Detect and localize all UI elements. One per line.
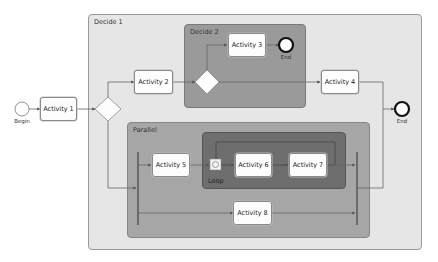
activity-1[interactable]: Activity 1 (40, 97, 77, 121)
activity-7-label: Activity 7 (293, 161, 324, 169)
end-event-decide2 (279, 38, 293, 52)
activity-6-label: Activity 6 (238, 161, 269, 169)
activity-2-label: Activity 2 (138, 78, 169, 86)
activity-3-label: Activity 3 (232, 41, 263, 49)
activity-7[interactable]: Activity 7 (289, 153, 327, 177)
activity-8-label: Activity 8 (237, 209, 268, 217)
activity-8[interactable]: Activity 8 (233, 201, 272, 225)
begin-event (15, 102, 29, 116)
end-event-main (395, 102, 409, 116)
end-main-label: End (387, 118, 417, 124)
activity-1-label: Activity 1 (43, 105, 74, 113)
begin-label: Begin (7, 118, 37, 124)
activity-4[interactable]: Activity 4 (321, 70, 359, 94)
gateway-decide1 (95, 97, 121, 121)
loop-marker-icon (210, 159, 221, 170)
activity-5-label: Activity 5 (156, 161, 187, 169)
activity-6[interactable]: Activity 6 (235, 153, 272, 177)
activity-3[interactable]: Activity 3 (228, 33, 266, 57)
end-decide2-label: End (271, 54, 301, 60)
activity-4-label: Activity 4 (325, 78, 356, 86)
gateway-decide2 (195, 70, 219, 94)
connector-lines (0, 0, 438, 262)
activity-5[interactable]: Activity 5 (152, 153, 190, 177)
activity-2[interactable]: Activity 2 (134, 70, 173, 94)
